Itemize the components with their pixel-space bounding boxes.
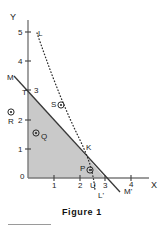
label-curve-l-end: L' bbox=[98, 192, 104, 200]
y-tick-5: 5 bbox=[18, 29, 22, 37]
label-line-m-end: M' bbox=[124, 188, 132, 196]
coordinate-plot bbox=[0, 0, 168, 232]
point-label-Q: Q bbox=[41, 133, 47, 141]
x-tick-2: 2 bbox=[78, 182, 82, 190]
figure-1-container: Y X 1 2 3 4 5 0 1 2 3 4 M M' L L' T K U … bbox=[0, 0, 168, 232]
y-tick-1: 1 bbox=[18, 146, 22, 154]
footer-rule bbox=[8, 224, 51, 225]
point-label-U: U bbox=[90, 182, 96, 190]
y-tick-4: 4 bbox=[18, 58, 22, 66]
x-tick-1: 1 bbox=[52, 182, 56, 190]
point-label-P: P bbox=[80, 165, 85, 173]
point-label-S: S bbox=[51, 101, 56, 109]
figure-caption: Figure 1 bbox=[62, 207, 102, 217]
y-axis-label: Y bbox=[10, 13, 16, 21]
y-tick-2: 2 bbox=[18, 117, 22, 125]
point-label-K: K bbox=[86, 144, 91, 152]
x-axis-label: X bbox=[151, 181, 157, 189]
marker-R bbox=[8, 109, 14, 115]
y-tick-3: 3 bbox=[34, 87, 38, 95]
point-label-R: R bbox=[8, 118, 14, 126]
label-curve-l-start: L bbox=[38, 30, 42, 38]
origin-label: 0 bbox=[20, 173, 24, 181]
x-tick-3: 3 bbox=[103, 182, 107, 190]
marker-S bbox=[58, 102, 64, 108]
label-line-m-start: M bbox=[7, 74, 14, 82]
point-label-T: T bbox=[22, 89, 27, 97]
